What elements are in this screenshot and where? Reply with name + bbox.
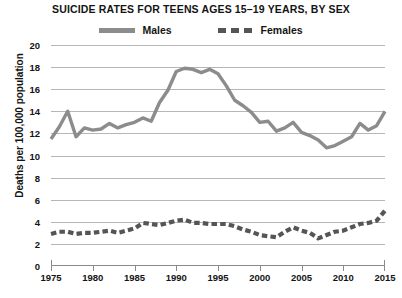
y-tick-label: 10 <box>0 150 40 161</box>
y-tick-label: 6 <box>0 194 40 205</box>
x-tick-label: 2010 <box>333 272 354 283</box>
x-tick <box>176 266 177 271</box>
plot-area <box>51 45 385 266</box>
x-tick-label: 1980 <box>82 272 103 283</box>
x-tick-label: 2005 <box>291 272 312 283</box>
x-tick <box>384 266 385 271</box>
y-tick-label: 20 <box>0 40 40 51</box>
y-tick-label: 4 <box>0 216 40 227</box>
x-axis-tick-labels: 197519801985199019952000200520102015 <box>51 272 385 286</box>
x-tick <box>93 266 94 271</box>
x-tick-label: 1985 <box>124 272 145 283</box>
y-tick-label: 0 <box>0 261 40 272</box>
y-tick-label: 2 <box>0 238 40 249</box>
y-tick-label: 14 <box>0 106 40 117</box>
x-tick <box>343 266 344 271</box>
legend-label-females: Females <box>261 24 303 36</box>
legend-label-males: Males <box>142 24 171 36</box>
x-tick-label: 1975 <box>40 272 61 283</box>
legend-swatch-females-dashed-line-icon <box>218 28 254 33</box>
x-tick-label: 2015 <box>374 272 395 283</box>
x-tick-label: 2000 <box>249 272 270 283</box>
x-tick <box>51 266 52 271</box>
suicide-rates-line-chart: SUICIDE RATES FOR TEENS AGES 15–19 YEARS… <box>0 0 402 298</box>
y-tick-label: 12 <box>0 128 40 139</box>
x-tick-label: 1995 <box>207 272 228 283</box>
legend-item-females: Females <box>218 24 303 36</box>
legend-swatch-males-solid-line-icon <box>99 28 135 33</box>
x-tick <box>135 266 136 271</box>
x-tick-label: 1990 <box>166 272 187 283</box>
data-series-layer <box>51 45 385 266</box>
x-tick <box>260 266 261 271</box>
x-tick <box>218 266 219 271</box>
chart-title: SUICIDE RATES FOR TEENS AGES 15–19 YEARS… <box>0 3 402 15</box>
y-axis-tick-labels: 20181614121086420 <box>0 45 46 266</box>
chart-legend: Males Females <box>0 24 402 36</box>
y-tick-label: 16 <box>0 84 40 95</box>
series-line-females <box>51 211 385 239</box>
y-tick-label: 18 <box>0 62 40 73</box>
x-tick <box>302 266 303 271</box>
legend-item-males: Males <box>99 24 171 36</box>
y-tick-label: 8 <box>0 172 40 183</box>
series-line-males <box>51 68 385 148</box>
